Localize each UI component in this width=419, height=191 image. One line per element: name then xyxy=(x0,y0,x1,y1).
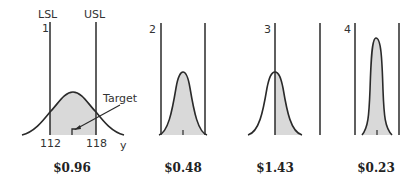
quality-loss-diagram: LSL USL 1 Target 112 118 y $0.96 2 $0.48… xyxy=(0,0,419,191)
panel-1: LSL USL 1 Target 112 118 y $0.96 xyxy=(22,8,138,175)
panel-4: 4 $0.23 xyxy=(344,23,399,175)
panel-2-shaded-area xyxy=(159,72,207,135)
panel-3: 3 $1.43 xyxy=(248,23,320,175)
panel-3-number: 3 xyxy=(264,23,271,36)
target-label: Target xyxy=(102,92,138,105)
panel-1-cost: $0.96 xyxy=(53,161,91,175)
usl-label: USL xyxy=(84,8,106,21)
panel-3-cost: $1.43 xyxy=(256,161,294,175)
axis-label: y xyxy=(120,139,127,152)
lsl-label: LSL xyxy=(38,8,58,21)
panel-2: 2 $0.48 xyxy=(149,23,207,175)
panel-4-number: 4 xyxy=(344,23,351,36)
panel-4-shaded-area xyxy=(362,38,392,135)
usl-value: 118 xyxy=(86,137,107,150)
panel-4-cost: $0.23 xyxy=(357,161,395,175)
panel-2-cost: $0.48 xyxy=(164,161,202,175)
panel-1-number: 1 xyxy=(42,22,49,35)
panel-3-shaded-area xyxy=(275,72,302,135)
lsl-value: 112 xyxy=(40,137,61,150)
panel-2-number: 2 xyxy=(149,23,156,36)
